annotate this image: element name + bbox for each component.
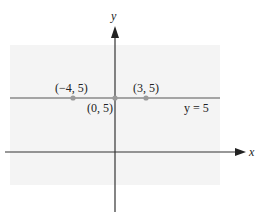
x-axis-label: x [248,145,255,159]
point-neg4-5 [70,95,75,100]
x-axis-arrow-icon [235,148,246,156]
y-axis-arrow-icon [111,26,119,38]
label-line-equation: y = 5 [184,101,209,115]
label-point-3-5: (3, 5) [133,81,159,95]
label-point-neg4-5: (−4, 5) [55,81,88,95]
point-0-5 [112,95,117,100]
coordinate-plane: y x (−4, 5) (0, 5) (3, 5) y = 5 [0,0,260,221]
point-3-5 [143,95,148,100]
y-axis-label: y [110,9,117,23]
graph-figure: y x (−4, 5) (0, 5) (3, 5) y = 5 [0,0,260,221]
label-point-0-5: (0, 5) [87,101,113,115]
